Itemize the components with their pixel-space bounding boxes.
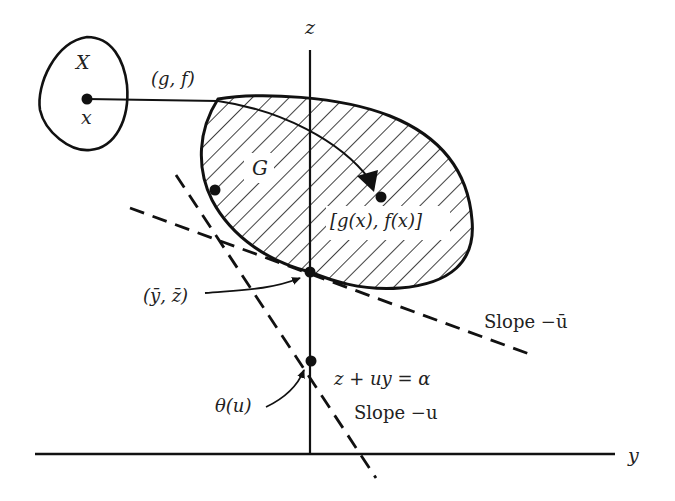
ybar-zbar-pointer <box>205 278 300 293</box>
set-x-label: X <box>76 53 90 72</box>
mapping-line <box>87 99 218 101</box>
set-g-label: G <box>252 158 268 178</box>
boundary-point <box>210 185 221 196</box>
point-theta-u <box>306 356 317 367</box>
set-g-hatching <box>180 80 500 310</box>
diagram-canvas: z y X x (g, f) G [g(x), f(x)] (ȳ, z̄) Sl… <box>0 0 675 501</box>
point-ybar-zbar <box>305 267 316 278</box>
point-x-label: x <box>81 108 92 127</box>
diagram-drawing <box>0 0 675 501</box>
z-axis-label: z <box>305 18 315 37</box>
point-gx-fx <box>376 192 387 203</box>
line-equation-label: z + uy = α <box>334 370 430 388</box>
y-axis-label: y <box>628 446 639 465</box>
theta-label: θ(u) <box>215 397 251 415</box>
slope-u-label: Slope −u <box>354 404 438 422</box>
image-point-label: [g(x), f(x)] <box>330 212 422 230</box>
supporting-point-label: (ȳ, z̄) <box>143 287 188 305</box>
mapping-label: (g, f) <box>151 70 195 88</box>
theta-pointer <box>266 370 304 407</box>
slope-ubar-label: Slope −ū <box>484 313 568 331</box>
